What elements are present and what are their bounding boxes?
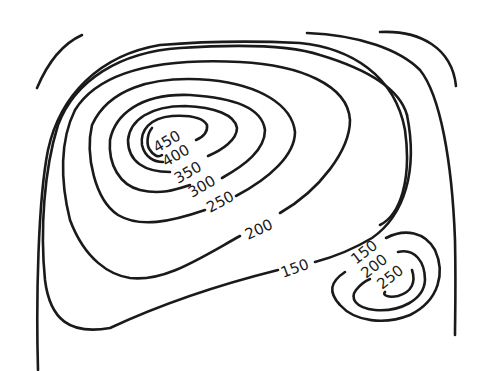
contour-150 [315,115,411,262]
contour-map: 450 400 350 300 250 200 150 150 200 250 [0,0,492,371]
contour-edge-top-right-short [380,32,456,86]
label-200: 200 [242,215,276,243]
contour-200 [63,61,350,278]
label-150: 150 [278,255,311,282]
contour-250 [90,79,295,222]
contour-edge-top-left [37,35,82,88]
